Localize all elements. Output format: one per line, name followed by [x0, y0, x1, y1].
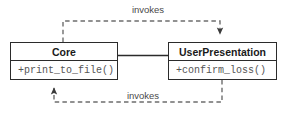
- uml-class-diagram: Core +print_to_file() UserPresentation +…: [0, 0, 289, 113]
- dependency-bottom-label: invokes: [124, 90, 162, 101]
- class-name-userpresentation: UserPresentation: [169, 43, 276, 61]
- dependency-top-connector: [63, 21, 220, 42]
- dependency-top-label: invokes: [129, 4, 167, 15]
- class-member-userpresentation-confirm-loss: +confirm_loss(): [169, 61, 276, 80]
- class-box-core[interactable]: Core +print_to_file(): [10, 42, 118, 80]
- dependency-top-path: [63, 21, 220, 42]
- class-name-core: Core: [11, 43, 117, 61]
- class-member-core-print-to-file: +print_to_file(): [11, 61, 117, 80]
- class-box-userpresentation[interactable]: UserPresentation +confirm_loss(): [168, 42, 277, 80]
